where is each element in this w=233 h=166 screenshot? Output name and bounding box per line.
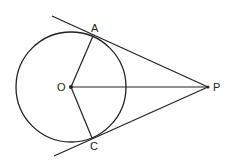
center-point-o [69, 85, 73, 89]
label-o: O [57, 81, 66, 93]
radius-oa [71, 36, 93, 87]
point-p [207, 86, 210, 89]
geometry-diagram: A O P C [0, 0, 233, 166]
label-p: P [213, 81, 220, 93]
radius-oc [71, 87, 92, 138]
label-c: C [90, 140, 98, 152]
tangent-line-pc [54, 87, 208, 156]
label-a: A [91, 22, 99, 34]
